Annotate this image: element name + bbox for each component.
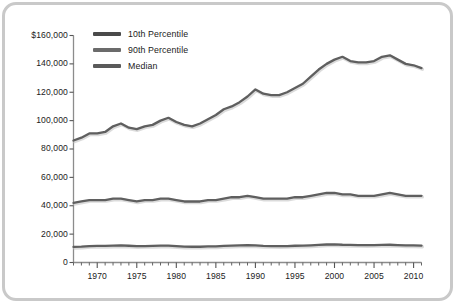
x-axis-label: 1985 (194, 271, 238, 281)
y-axis-label: 60,000 (8, 172, 68, 182)
figure-frame: $160,000140,000120,000100,00080,00060,00… (0, 0, 459, 307)
legend-swatch-icon (93, 48, 121, 51)
x-axis-label: 2010 (392, 271, 436, 281)
chart-legend: 10th Percentile90th PercentileMedian (93, 27, 188, 75)
y-axis-label: 80,000 (8, 143, 68, 153)
x-axis-label: 1970 (75, 271, 119, 281)
legend-item: Median (93, 59, 188, 73)
y-axis-label: 40,000 (8, 200, 68, 210)
y-axis-label: 20,000 (8, 229, 68, 239)
x-axis-label: 1980 (154, 271, 198, 281)
x-axis-label: 2000 (313, 271, 357, 281)
legend-label: Median (128, 61, 157, 71)
y-axis-label: 100,000 (8, 115, 68, 125)
x-axis-label: 1990 (233, 271, 277, 281)
x-axis-label: 1975 (115, 271, 159, 281)
chart-svg (0, 0, 459, 307)
legend-swatch-icon (93, 64, 121, 67)
legend-item: 90th Percentile (93, 43, 188, 57)
y-axis-label: 140,000 (8, 58, 68, 68)
x-axis-label: 2005 (352, 271, 396, 281)
x-axis-label: 1995 (273, 271, 317, 281)
legend-label: 90th Percentile (128, 45, 188, 55)
chart-plot-area (0, 0, 459, 307)
y-axis-label: 0 (8, 257, 68, 267)
legend-swatch-icon (93, 32, 121, 35)
y-axis-label: 120,000 (8, 87, 68, 97)
legend-label: 10th Percentile (128, 29, 188, 39)
y-axis-label: $160,000 (8, 30, 68, 40)
legend-item: 10th Percentile (93, 27, 188, 41)
